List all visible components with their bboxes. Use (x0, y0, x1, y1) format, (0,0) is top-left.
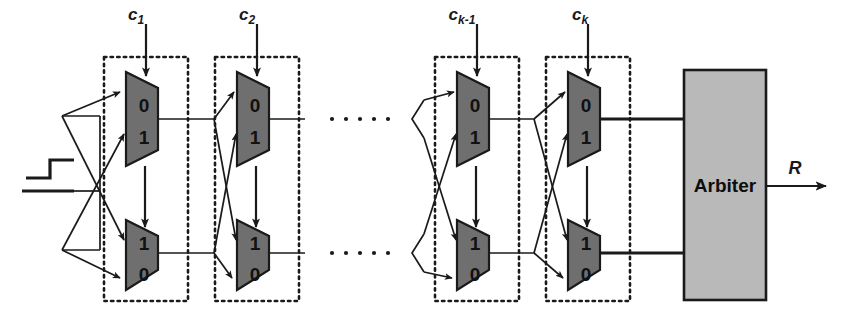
arbiter-block: Arbiter (684, 70, 766, 300)
mux-bottom: 1 0 (126, 220, 158, 290)
mux-body (568, 72, 600, 166)
cross-wire-top-to-bottom (424, 138, 456, 240)
interconnect-1-2 (214, 92, 236, 278)
cross-wire-bottom-straight (424, 272, 452, 278)
circuit-diagram: c1 0 1 1 0 (0, 0, 848, 331)
output-group: R (766, 158, 826, 186)
cross-wire-top-straight (534, 92, 565, 119)
control-label-ck-minus-1: ck-1 (449, 5, 476, 27)
mux-bottom: 1 0 (457, 220, 489, 290)
mux-top: 0 1 (237, 72, 269, 166)
mux-bottom: 1 0 (237, 220, 269, 290)
mux-body (457, 72, 489, 166)
mux-input-digit-1: 1 (470, 127, 481, 148)
mux-input-digit-1: 1 (250, 127, 261, 148)
mux-input-digit-0: 0 (581, 264, 592, 285)
cross-wire-bottom-to-top (214, 134, 236, 253)
mux-top: 0 1 (126, 72, 158, 166)
arbiter-input-wires (600, 119, 684, 253)
interconnect-k-minus-1-to-k (534, 92, 567, 278)
cross-wire-top-to-bottom (534, 119, 567, 240)
control-label-c1: c1 (128, 5, 144, 27)
mux-input-digit-1: 1 (139, 233, 150, 254)
mux-input-digit-0: 0 (139, 264, 150, 285)
mux-input-digit-0: 0 (139, 95, 150, 116)
mux-input-digit-1: 1 (250, 233, 261, 254)
step-pulse-icon (22, 160, 74, 191)
mux-input-digit-0: 0 (250, 264, 261, 285)
arbiter-label: Arbiter (694, 175, 757, 196)
cross-wire-top-straight (214, 92, 234, 119)
stage-k: ck 0 1 1 0 (546, 5, 630, 301)
cross-wire-bottom-to-top (534, 134, 567, 253)
mux-top: 0 1 (568, 72, 600, 166)
mux-input-digit-0: 0 (470, 264, 481, 285)
control-label-ck: ck (572, 5, 589, 27)
cross-wire-bottom-straight (534, 253, 563, 278)
cross-wire-bottom-straight (214, 253, 232, 278)
cross-wire-top-to-bottom (214, 119, 236, 240)
control-label-c2: c2 (239, 5, 255, 27)
input-group (22, 92, 124, 278)
ellipsis-lower (330, 251, 390, 255)
ellipsis-group (330, 117, 390, 255)
mux-input-digit-1: 1 (470, 233, 481, 254)
mux-top: 0 1 (457, 72, 489, 166)
mux-input-digit-1: 1 (581, 233, 592, 254)
input-fanout-top-to-bottom-mux (62, 116, 124, 240)
output-label-R: R (789, 158, 802, 178)
mux-input-digit-1: 1 (139, 127, 150, 148)
ellipsis-upper (330, 117, 390, 121)
mux-bottom: 1 0 (568, 220, 600, 290)
cross-wire-top-straight (424, 92, 454, 100)
cross-wire-bottom-to-top (424, 134, 456, 234)
mux-input-digit-0: 0 (250, 95, 261, 116)
stage-1: c1 0 1 1 0 (104, 5, 214, 301)
feed-node-top (412, 100, 424, 138)
mux-body (237, 72, 269, 166)
input-fanout-bottom-to-bottom-mux (62, 250, 120, 278)
feed-node-bottom (412, 234, 424, 272)
mux-input-digit-0: 0 (470, 95, 481, 116)
figure-canvas: c1 0 1 1 0 (0, 0, 848, 331)
input-fanout-top-to-top-mux (62, 92, 120, 116)
mux-body (126, 72, 158, 166)
mux-input-digit-1: 1 (581, 127, 592, 148)
stage-2: c2 0 1 1 0 (215, 5, 305, 301)
mux-input-digit-0: 0 (581, 95, 592, 116)
